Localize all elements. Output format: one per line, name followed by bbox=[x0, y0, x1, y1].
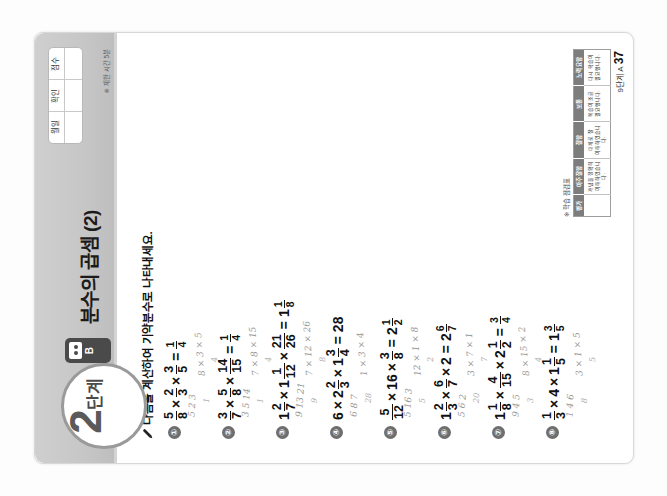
whole-part: 1 bbox=[276, 412, 292, 420]
denominator: 15 bbox=[229, 358, 243, 374]
meta-table-header-row: 월일 확인 점수 bbox=[49, 48, 65, 143]
problem-item: ③127×1112×2126=1189 13 217 × 12 × 2698 bbox=[271, 51, 325, 439]
evaluation-header-cell: 보통 bbox=[573, 86, 584, 122]
whole-part: 1 bbox=[330, 358, 346, 366]
denominator: 7 bbox=[445, 379, 459, 388]
numerator: 3 bbox=[378, 351, 391, 360]
meta-value-check[interactable] bbox=[64, 80, 81, 112]
chip-dots-icon bbox=[69, 342, 82, 359]
meta-header-check: 확인 bbox=[49, 80, 65, 112]
problem-item: ②37×58×1415=143 5 147 × 8 × 1514 bbox=[217, 51, 271, 439]
handwritten-work: 5 bbox=[417, 398, 426, 404]
problem-expression: 127×1112×2126=118 bbox=[271, 300, 297, 420]
fraction-term: 35 bbox=[162, 365, 189, 374]
whole-part: 2 bbox=[330, 390, 346, 398]
whole-part: 1 bbox=[276, 380, 292, 388]
handwritten-work: 1 bbox=[201, 398, 210, 403]
whole-part: 2 bbox=[438, 333, 454, 341]
meta-value-date[interactable] bbox=[64, 111, 81, 143]
step-badge: 2 단계 bbox=[61, 363, 147, 449]
fraction-term: 18 bbox=[272, 300, 294, 308]
whole-part: 1 bbox=[546, 367, 562, 375]
denominator: 3 bbox=[175, 388, 189, 397]
whole-part: 1 bbox=[546, 333, 562, 341]
numerator: 3 bbox=[324, 348, 337, 357]
operator: × bbox=[276, 391, 292, 399]
evaluation-header-cell: 노력 요함 bbox=[573, 50, 584, 86]
handwritten-work: 20 bbox=[471, 393, 481, 404]
denominator: 12 bbox=[391, 404, 405, 420]
handwritten-work: 8 × 3 × 5 bbox=[192, 332, 206, 376]
numerator: 6 bbox=[434, 324, 445, 332]
operator: × bbox=[168, 377, 184, 385]
set-label: B bbox=[85, 347, 95, 354]
fraction-term: 38 bbox=[378, 351, 405, 360]
numerator: 1 bbox=[486, 402, 499, 411]
fraction-term: 12 bbox=[486, 340, 513, 349]
fraction-term: 18 bbox=[486, 402, 513, 411]
fraction-term: 2126 bbox=[270, 333, 297, 349]
integer-term: 16 bbox=[384, 374, 400, 390]
problem-item: ④6×223×134=286 8 71 × 3 × 428 bbox=[325, 51, 379, 439]
handwritten-work: 9 bbox=[309, 398, 318, 404]
equals-sign: = bbox=[168, 353, 184, 361]
numerator: 1 bbox=[164, 341, 175, 349]
numerator: 2 bbox=[324, 380, 337, 389]
numerator: 1 bbox=[380, 318, 391, 326]
evaluation-body-cell[interactable]: 복습이 조금필요합니다. bbox=[584, 86, 610, 122]
fraction-term: 14 bbox=[218, 334, 240, 342]
problem-number: ④ bbox=[330, 426, 343, 439]
handwritten-work: 5 bbox=[587, 357, 596, 363]
denominator: 2 bbox=[391, 318, 403, 326]
problem-expression: 512×16×38=212 bbox=[379, 318, 405, 420]
numerator: 1 bbox=[540, 411, 553, 420]
handwritten-work: 7 × 12 × 26 bbox=[301, 321, 314, 377]
equals-sign: = bbox=[222, 346, 238, 354]
denominator: 4 bbox=[499, 316, 511, 324]
operator: × bbox=[276, 352, 292, 360]
step-number: 2 bbox=[64, 411, 108, 433]
problem-expression: 118×415×212=34 bbox=[487, 316, 513, 420]
operator: × bbox=[222, 377, 238, 385]
problem-expression: 58×23×35=14 bbox=[163, 341, 189, 420]
operator: × bbox=[330, 369, 346, 377]
fraction-term: 23 bbox=[432, 402, 459, 411]
denominator: 4 bbox=[229, 334, 241, 342]
denominator: 5 bbox=[175, 365, 189, 374]
evaluation-body-cell[interactable]: 다시 학습이필요합니다. bbox=[584, 50, 610, 86]
evaluation-header-cell: 잘함 bbox=[573, 122, 584, 158]
worksheet-page: 2 단계 B 분수의 곱셈 (2) 월일 확인 점수 bbox=[34, 32, 634, 464]
evaluation-body-cell[interactable]: 대체로 잘이해하였습니다. bbox=[584, 122, 610, 158]
handwritten-work: 1 × 3 × 4 bbox=[354, 332, 368, 376]
fraction-term: 34 bbox=[324, 348, 351, 357]
numerator: 1 bbox=[540, 357, 553, 366]
operator: × bbox=[222, 400, 238, 408]
time-limit-note: ※ 제한 시간 5분 bbox=[101, 49, 111, 93]
operator: × bbox=[438, 368, 454, 376]
operator: × bbox=[438, 391, 454, 399]
evaluation-body-cell[interactable]: 개념을 정확히이해하였습니다. bbox=[584, 158, 610, 194]
meta-header-score: 점수 bbox=[49, 48, 65, 80]
whole-part: 1 bbox=[276, 309, 292, 317]
numerator: 1 bbox=[270, 367, 283, 376]
numerator: 21 bbox=[270, 333, 283, 349]
problem-number: ⑤ bbox=[384, 426, 397, 439]
meta-value-score[interactable] bbox=[64, 48, 81, 80]
page-footer: 9단계 A37 bbox=[612, 51, 626, 92]
numerator: 1 bbox=[486, 340, 499, 349]
integer-term: 6 bbox=[330, 412, 346, 420]
problem-item: ⑥123×67×2=2675 6 23 × 7 × 1207 bbox=[433, 51, 487, 439]
numerator: 3 bbox=[216, 411, 229, 420]
integer-term: 4 bbox=[546, 389, 562, 397]
denominator: 12 bbox=[283, 363, 297, 379]
problem-expression: 13×4×115=135 bbox=[541, 324, 567, 420]
problem-item: ⑦118×415×212=349 4 58 × 15 × 234 bbox=[487, 51, 541, 439]
evaluation-title: ※ 학습 점검표 bbox=[560, 49, 570, 217]
integer-term: 28 bbox=[330, 317, 346, 333]
evaluation-body-cell[interactable] bbox=[584, 195, 610, 217]
problem-list: ①58×23×35=145 2 38 × 3 × 514②37×58×1415=… bbox=[163, 51, 595, 439]
equals-sign: = bbox=[276, 321, 292, 329]
numerator: 1 bbox=[272, 300, 283, 308]
numerator: 4 bbox=[486, 376, 499, 385]
numerator: 3 bbox=[542, 324, 553, 332]
